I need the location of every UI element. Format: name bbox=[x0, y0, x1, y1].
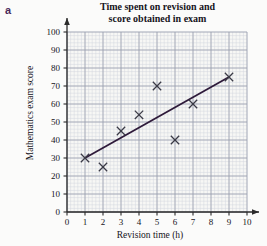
x-tick-label: 9 bbox=[222, 217, 236, 227]
y-tick-label: 70 bbox=[34, 81, 60, 91]
x-tick-label: 6 bbox=[168, 217, 182, 227]
x-tick-label: 1 bbox=[78, 217, 92, 227]
y-tick-label: 20 bbox=[34, 171, 60, 181]
y-tick-label: 100 bbox=[34, 27, 60, 37]
y-tick-label: 60 bbox=[34, 99, 60, 109]
y-tick-label: 80 bbox=[34, 63, 60, 73]
y-tick-label: 90 bbox=[34, 45, 60, 55]
y-tick-label: 50 bbox=[34, 117, 60, 127]
scatter-chart-figure: a Time spent on revision and score obtai… bbox=[0, 0, 267, 246]
x-tick-label: 5 bbox=[150, 217, 164, 227]
x-tick-label: 8 bbox=[204, 217, 218, 227]
x-tick-label: 2 bbox=[96, 217, 110, 227]
x-tick-label: 7 bbox=[186, 217, 200, 227]
x-tick-label: 10 bbox=[240, 217, 254, 227]
x-tick-label: 0 bbox=[60, 217, 74, 227]
y-tick-label: 30 bbox=[34, 153, 60, 163]
x-tick-label: 3 bbox=[114, 217, 128, 227]
y-tick-label: 40 bbox=[34, 135, 60, 145]
x-tick-label: 4 bbox=[132, 217, 146, 227]
y-tick-label: 10 bbox=[34, 189, 60, 199]
y-tick-label: 0 bbox=[34, 207, 60, 217]
